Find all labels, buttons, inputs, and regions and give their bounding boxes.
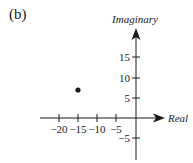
y-tick-label: 10 <box>119 72 131 84</box>
x-axis-title: Real <box>167 112 188 124</box>
y-tick-label: 5 <box>125 92 131 104</box>
y-tick-label: −5 <box>118 132 130 144</box>
complex-plane-chart: −20 −15 −10 −5 15 10 5 −5 Real Imaginary <box>0 0 193 163</box>
x-tick-label: −10 <box>88 123 106 135</box>
x-tick-label: −20 <box>50 123 68 135</box>
x-tick-label: −15 <box>69 123 87 135</box>
y-axis-title: Imaginary <box>111 13 158 25</box>
data-point <box>75 87 80 92</box>
y-tick-label: 15 <box>119 51 131 63</box>
